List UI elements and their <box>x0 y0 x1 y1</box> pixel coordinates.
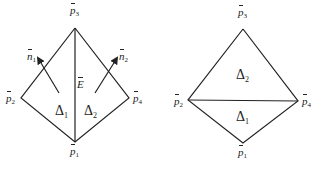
label-triangle-2-left: Δ2 <box>84 104 97 120</box>
label-triangle-1-left: Δ1 <box>55 104 68 120</box>
label-p3-left: p3 <box>70 5 79 18</box>
label-triangle-1-right: Δ1 <box>236 110 249 126</box>
label-normal-n1: n1 <box>27 51 36 64</box>
label-p4-left: p4 <box>133 93 142 106</box>
diagram-canvas <box>0 0 318 170</box>
label-edge-E: E <box>77 79 84 90</box>
label-p1-left: p1 <box>70 146 79 159</box>
label-p1-right: p1 <box>238 147 247 160</box>
label-p4-right: p4 <box>302 96 311 109</box>
label-p2-left: p2 <box>6 93 15 106</box>
left-quad <box>21 28 129 142</box>
shared-edge-horizontal <box>188 100 298 101</box>
normal-n2-arrow <box>95 58 117 93</box>
label-normal-n2: n2 <box>119 51 128 64</box>
label-p2-right: p2 <box>174 96 183 109</box>
label-triangle-2-right: Δ2 <box>236 68 249 84</box>
label-p3-right: p3 <box>238 7 247 20</box>
